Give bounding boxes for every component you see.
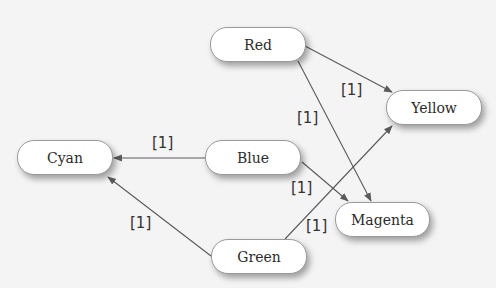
edge-weight-label: [1] bbox=[297, 111, 318, 126]
node-label: Magenta bbox=[351, 212, 414, 228]
node-label: Yellow bbox=[411, 100, 457, 116]
node-label: Cyan bbox=[47, 150, 83, 166]
node-label: Blue bbox=[237, 150, 269, 166]
node-label: Green bbox=[237, 249, 280, 265]
node-cyan[interactable]: Cyan bbox=[17, 140, 113, 175]
node-label: Red bbox=[244, 37, 272, 53]
node-magenta[interactable]: Magenta bbox=[335, 202, 430, 237]
node-blue[interactable]: Blue bbox=[205, 140, 301, 175]
node-red[interactable]: Red bbox=[210, 27, 306, 62]
edge-green-to-cyan bbox=[108, 177, 211, 256]
edge-weight-label: [1] bbox=[306, 219, 327, 234]
edge-weight-label: [1] bbox=[291, 181, 312, 196]
edge-weight-label: [1] bbox=[130, 216, 151, 231]
node-green[interactable]: Green bbox=[211, 239, 307, 274]
edge-weight-label: [1] bbox=[341, 83, 362, 98]
edge-weight-label: [1] bbox=[152, 136, 173, 151]
node-yellow[interactable]: Yellow bbox=[386, 90, 482, 125]
